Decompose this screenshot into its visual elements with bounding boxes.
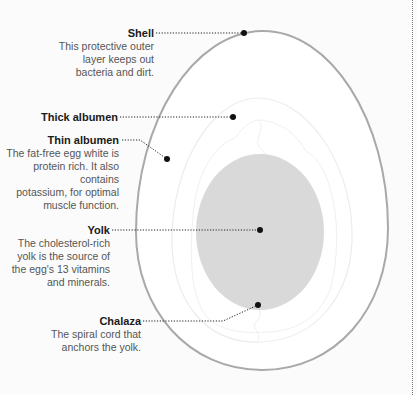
chalaza-label: Chalaza The spiral cord that anchors the…: [21, 314, 141, 354]
yolk-title: Yolk: [0, 223, 110, 237]
shell-description: This protective outer layer keeps out ba…: [0, 40, 154, 79]
chalaza-marker-dot: [255, 302, 261, 308]
yolk-marker-dot: [257, 227, 263, 233]
thick-albumen-marker-dot: [230, 114, 236, 120]
shell-title: Shell: [0, 26, 154, 40]
thin-albumen-title: Thin albumen: [0, 133, 119, 147]
thin-albumen-label: Thin albumen The fat-free egg white is p…: [0, 133, 119, 212]
thin-albumen-marker-dot: [164, 156, 170, 162]
page-edge-dotted-divider: [412, 0, 413, 395]
shell-label: Shell This protective outer layer keeps …: [0, 26, 154, 79]
thick-albumen-title: Thick albumen: [0, 110, 118, 124]
yolk-description: The cholesterol-rich yolk is the source …: [0, 237, 110, 289]
chalaza-title: Chalaza: [21, 314, 141, 328]
thin-albumen-description: The fat-free egg white is protein rich. …: [0, 147, 119, 212]
chalaza-description: The spiral cord that anchors the yolk.: [21, 328, 141, 354]
thick-albumen-label: Thick albumen: [0, 110, 118, 124]
yolk-label: Yolk The cholesterol-rich yolk is the so…: [0, 223, 110, 289]
shell-marker-dot: [241, 30, 247, 36]
